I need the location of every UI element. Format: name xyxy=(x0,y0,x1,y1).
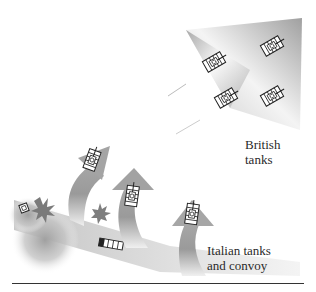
british-label-line-1: British xyxy=(245,137,280,152)
british-formation-wedge xyxy=(168,18,302,134)
british-label-line-2: tanks xyxy=(245,152,280,167)
explosion-icon xyxy=(91,203,111,224)
italian-tanks-label: Italian tanks and convoy xyxy=(207,243,271,273)
caption-divider xyxy=(12,283,304,284)
battle-diagram: British tanks Italian tanks and convoy xyxy=(0,0,316,292)
italian-label-line-2: and convoy xyxy=(207,258,271,273)
british-tanks-label: British tanks xyxy=(245,137,280,167)
italian-label-line-1: Italian tanks xyxy=(207,243,271,258)
